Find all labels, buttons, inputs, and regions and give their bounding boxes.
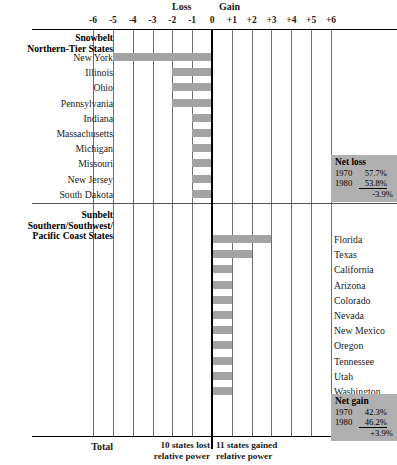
section-heading-snowbelt: Snowbelt Northern-Tier States [0, 33, 113, 54]
gridline-2 [252, 30, 253, 436]
gridline-5 [311, 30, 312, 436]
net-loss-row-1980: 198053.8% [335, 178, 393, 189]
bar-nevada [212, 311, 232, 319]
gain-note-line1: 11 states gained [216, 440, 277, 450]
state-label-indiana: Indiana [0, 113, 113, 124]
state-label-ohio: Ohio [0, 82, 113, 93]
net-gain-title: Net gain [335, 396, 393, 407]
bar-missouri [192, 159, 212, 167]
section-heading-sunbelt: Sunbelt Southern/Southwest/ Pacific Coas… [0, 210, 113, 242]
plot-area [117, 30, 355, 436]
gain-header: Gain [219, 1, 240, 13]
rule-section-divider [32, 203, 397, 204]
net-loss-summary-box: Net loss 197057.7% 198053.8% -3.9% [331, 155, 397, 202]
sunbelt-subtitle-line1: Southern/Southwest/ [28, 220, 113, 231]
bar-pennsylvania [172, 99, 212, 107]
state-label-south-dakota: South Dakota [0, 189, 113, 200]
gridline-4 [291, 30, 292, 436]
tick-label-+6: +6 [318, 14, 344, 26]
state-label-colorado: Colorado [334, 295, 397, 306]
net-loss-value-1980: 53.8% [359, 178, 387, 189]
bar-indiana [192, 114, 212, 122]
state-label-texas: Texas [334, 249, 397, 260]
state-label-illinois: Illinois [0, 67, 113, 78]
gridline--5 [113, 30, 114, 436]
state-label-massachusetts: Massachusetts [0, 128, 113, 139]
sunbelt-title: Sunbelt [82, 209, 113, 220]
bar-texas [212, 250, 252, 258]
gridline-zero-axis [211, 30, 213, 436]
loss-note-line1: 10 states lost [160, 440, 210, 450]
state-label-nevada: Nevada [334, 310, 397, 321]
state-label-florida: Florida [334, 234, 397, 245]
state-label-utah: Utah [334, 371, 397, 382]
state-label-michigan: Michigan [0, 143, 113, 154]
bar-massachusetts [192, 129, 212, 137]
state-label-new-mexico: New Mexico [334, 325, 397, 336]
net-loss-year-1980: 1980 [335, 178, 359, 188]
net-gain-year-1970: 1970 [335, 407, 359, 417]
footer-axis-tick [211, 437, 213, 449]
gridline-1 [232, 30, 233, 436]
state-label-pennsylvania: Pennsylvania [0, 98, 113, 109]
net-gain-value-1970: 42.3% [359, 407, 387, 417]
net-gain-summary-box: Net gain 197042.3% 198046.2% +3.9% [331, 394, 397, 441]
bar-arizona [212, 281, 232, 289]
bar-california [212, 265, 232, 273]
loss-header: Loss [172, 1, 191, 13]
gridline--4 [133, 30, 134, 436]
state-label-tennessee: Tennessee [334, 356, 397, 367]
net-loss-delta: -3.9% [335, 189, 393, 199]
net-loss-value-1970: 57.7% [359, 168, 387, 178]
loss-note-line2: relative power [154, 451, 210, 461]
bar-michigan [192, 144, 212, 152]
state-label-missouri: Missouri [0, 158, 113, 169]
x-axis-tick-labels: -6-5-4-3-2-10+1+2+3+4+5+6 [0, 14, 397, 28]
gridline--3 [153, 30, 154, 436]
sunbelt-subtitle-line2: Pacific Coast States [33, 230, 113, 241]
rule-top [32, 29, 397, 30]
bar-washington [212, 387, 232, 395]
bar-ohio [172, 83, 212, 91]
bar-colorado [212, 296, 232, 304]
total-label: Total [0, 441, 113, 453]
snowbelt-title: Snowbelt [75, 32, 113, 43]
net-loss-row-1970: 197057.7% [335, 168, 393, 178]
bar-new-york [113, 53, 212, 61]
bar-new-mexico [212, 326, 232, 334]
bar-illinois [172, 68, 212, 76]
state-label-california: California [334, 264, 397, 275]
bar-utah [212, 372, 232, 380]
gain-footer-note: 11 states gained relative power [216, 440, 326, 461]
state-label-oregon: Oregon [334, 340, 397, 351]
bar-new-jersey [192, 175, 212, 183]
net-loss-title: Net loss [335, 157, 393, 168]
state-label-arizona: Arizona [334, 280, 397, 291]
bar-tennessee [212, 357, 232, 365]
net-gain-value-1980: 46.2% [359, 417, 387, 428]
net-gain-year-1980: 1980 [335, 417, 359, 427]
bar-oregon [212, 341, 232, 349]
bar-florida [212, 235, 271, 243]
loss-footer-note: 10 states lost relative power [118, 440, 210, 461]
congressional-apportionment-chart: -6-5-4-3-2-10+1+2+3+4+5+6 Loss Gain Snow… [0, 0, 397, 465]
gridline-6 [331, 30, 332, 436]
net-gain-row-1970: 197042.3% [335, 407, 393, 417]
net-loss-year-1970: 1970 [335, 168, 359, 178]
gridline-3 [271, 30, 272, 436]
state-label-new-york: New York [0, 52, 113, 63]
net-gain-delta: +3.9% [335, 428, 393, 438]
net-gain-row-1980: 198046.2% [335, 417, 393, 428]
state-label-new-jersey: New Jersey [0, 174, 113, 185]
gain-note-line2: relative power [216, 451, 272, 461]
bar-south-dakota [192, 190, 212, 198]
